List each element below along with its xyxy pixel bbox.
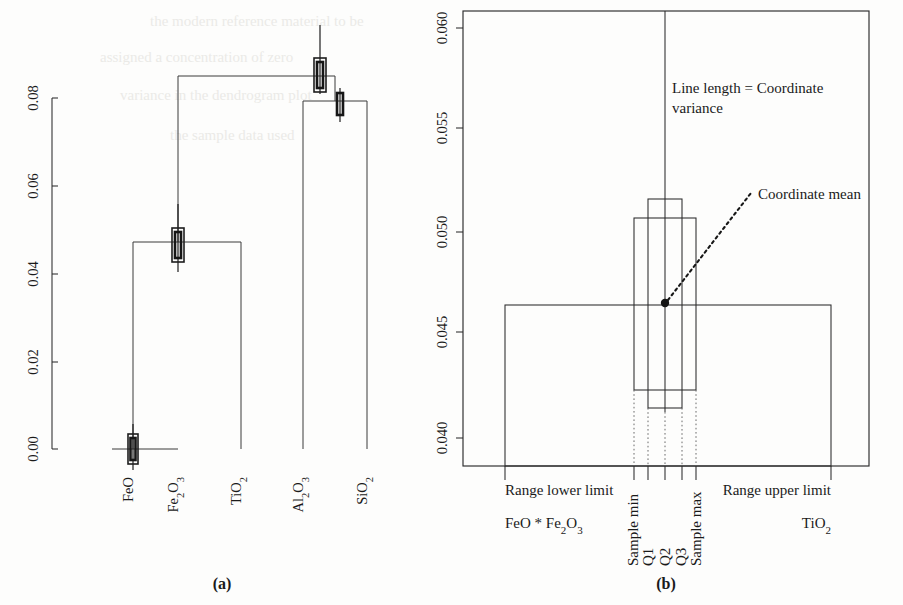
panel-b-tick-label-1: 0.055 — [434, 112, 450, 145]
y-tick-label-2: 0.04 — [25, 261, 41, 287]
leaf-label-al2o3: Al2O3 — [290, 477, 311, 512]
y-tick-label-4: 0.00 — [25, 436, 41, 461]
coordinate-mean-leader — [668, 193, 751, 300]
merge-glyph-root — [314, 25, 326, 94]
panel-b-caption: (b) — [656, 575, 676, 593]
ghost-line-1: assigned a concentration of zero — [100, 49, 293, 65]
panel-b-detail: 0.060 0.055 0.050 0.045 0.040 Line lengt… — [434, 11, 869, 593]
leaf-label-fe2o3: Fe2O3 — [165, 477, 186, 512]
panel-b-tick-label-2: 0.050 — [434, 216, 450, 249]
panel-b-tick-label-3: 0.045 — [434, 316, 450, 349]
label-q2: Q2 — [657, 548, 673, 566]
label-range-upper-limit: Range upper limit — [723, 482, 832, 498]
dendrogram-link-feo-fe2o3 — [133, 242, 241, 449]
range-rectangle — [505, 305, 831, 466]
leaf-label-sio2: SiO2 — [354, 477, 375, 505]
leaf-label-tio2: TiO2 — [228, 477, 249, 505]
panel-b-x-ticks — [505, 466, 831, 480]
line-length-annotation-line2: variance — [672, 100, 723, 116]
dendrogram-leaf-labels: FeO Fe2O3 TiO2 Al2O3 SiO2 — [120, 477, 375, 512]
figure-svg: the modern reference material to be assi… — [0, 0, 903, 605]
line-length-annotation-line1: Line length = Coordinate — [672, 80, 824, 96]
label-q3: Q3 — [673, 548, 689, 566]
figure-container: the modern reference material to be assi… — [0, 0, 903, 605]
merge-glyph-al2o3-sio2 — [337, 88, 343, 122]
panel-a-dendrogram: 0.08 0.06 0.04 0.02 0.00 — [25, 25, 375, 593]
panel-b-x-labels: Range lower limit Range upper limit FeO … — [505, 482, 832, 536]
ghost-line-2: variance in the dendrogram plot — [120, 87, 312, 103]
dendrogram-link-al2o3-sio2 — [303, 101, 367, 449]
y-tick-label-3: 0.02 — [25, 349, 41, 374]
merge-glyph-feo-fe2o3 — [172, 204, 184, 272]
label-sample-max: Sample max — [688, 491, 704, 566]
panel-b-y-axis: 0.060 0.055 0.050 0.045 0.040 — [434, 12, 463, 455]
ghost-line-0: the modern reference material to be — [150, 13, 364, 29]
ghost-bleed-text: the modern reference material to be assi… — [100, 13, 364, 143]
leaf-label-feo: FeO — [120, 477, 136, 502]
label-sample-min: Sample min — [625, 493, 641, 566]
panel-b-tick-label-0: 0.060 — [434, 12, 450, 45]
leaf-glyph-feo — [112, 424, 178, 470]
y-tick-label-1: 0.06 — [25, 173, 41, 198]
coordinate-mean-annotation: Coordinate mean — [758, 186, 861, 202]
label-range-upper-formula: TiO2 — [802, 515, 831, 536]
panel-a-y-axis: 0.08 0.06 0.04 0.02 0.00 — [25, 85, 58, 461]
label-range-lower-formula: FeO * Fe2O3 — [505, 515, 583, 536]
panel-b-rotated-labels: Sample min Q1 Q2 Q3 Sample max — [625, 491, 704, 566]
label-range-lower-limit: Range lower limit — [505, 482, 614, 498]
y-tick-label-0: 0.08 — [25, 85, 41, 110]
panel-a-caption: (a) — [213, 575, 232, 593]
label-q1: Q1 — [640, 548, 656, 566]
ghost-line-3: the sample data used — [170, 127, 295, 143]
line-length-annotation: Line length = Coordinate variance — [672, 80, 824, 116]
panel-b-tick-label-4: 0.040 — [434, 422, 450, 455]
